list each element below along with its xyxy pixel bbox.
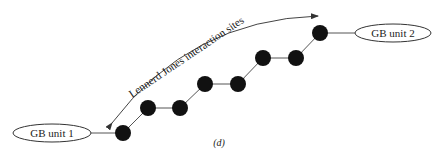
gb-unit-2: GB unit 2: [355, 24, 431, 42]
figure-caption: (d): [213, 137, 225, 149]
lj-site-node: [140, 100, 156, 116]
lj-site-node: [172, 100, 188, 116]
lj-site-node: [288, 50, 304, 66]
gb-unit-1-label: GB unit 1: [30, 127, 73, 139]
lj-site-node: [115, 125, 131, 141]
lj-site-node: [312, 25, 328, 41]
arrow-label: Lennerd Jones interaction sites: [126, 14, 245, 100]
lj-site-node: [255, 50, 271, 66]
diagram-canvas: Lennerd Jones interaction sites GB unit …: [0, 0, 443, 154]
lj-site-node: [230, 76, 246, 92]
lj-site-node: [197, 76, 213, 92]
gb-unit-1: GB unit 1: [13, 124, 91, 142]
gb-unit-2-label: GB unit 2: [371, 27, 414, 39]
